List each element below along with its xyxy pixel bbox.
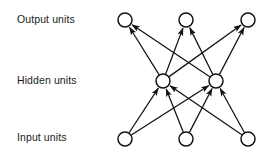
- edge-i3-to-h2: [220, 88, 244, 132]
- edge-h1-to-o2: [166, 28, 183, 74]
- neural-network-figure: Output units Hidden units Input units: [0, 0, 273, 158]
- node-o2: [179, 13, 193, 27]
- network-graph: [0, 0, 273, 158]
- nodes-group: [118, 13, 255, 146]
- node-i1: [118, 132, 132, 146]
- edge-i1-to-h2: [131, 86, 209, 135]
- node-i3: [241, 132, 255, 146]
- edges-group: [129, 25, 244, 135]
- node-o1: [118, 13, 132, 27]
- node-h1: [156, 74, 170, 88]
- edge-h2-to-o2: [190, 28, 213, 75]
- node-i2: [179, 132, 193, 146]
- node-h2: [209, 74, 223, 88]
- edge-h1-to-o1: [129, 27, 159, 74]
- edge-h2-to-o3: [219, 28, 244, 75]
- node-o3: [241, 13, 255, 27]
- edge-i1-to-h1: [129, 88, 158, 133]
- edge-h1-to-o3: [169, 25, 241, 77]
